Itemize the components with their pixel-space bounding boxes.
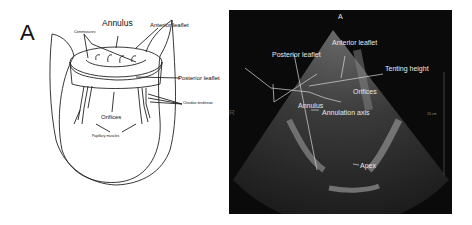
echo-label-anterior-leaflet: Anterior leaflet xyxy=(332,39,377,46)
echo-label-posterior-leaflet: Posterior leaflet xyxy=(272,51,321,58)
label-orifices: Orifices xyxy=(101,114,121,120)
echo-orientation-top: A xyxy=(338,13,343,20)
mitral-valve-diagram: Annulus Anterior leaflet Commissures Pos… xyxy=(0,0,228,225)
echo-label-apex: Apex xyxy=(360,162,376,169)
label-papillary-muscles: Papillary muscles xyxy=(92,135,119,139)
echo-orientation-left: R xyxy=(229,109,235,117)
label-commissures: Commissures xyxy=(74,31,95,35)
diagram-drawing xyxy=(0,0,228,225)
echo-scale-label: 15 cm xyxy=(427,113,437,117)
label-posterior-leaflet: Posterior leaflet xyxy=(178,75,220,81)
label-chordae-tendineae: Chordae tendineae xyxy=(183,102,213,106)
echo-label-annulation-axis: Annulation axis xyxy=(322,109,369,116)
label-anterior-leaflet: Anterior leaflet xyxy=(150,22,189,28)
echo-label-annulus: Annulus xyxy=(298,102,323,109)
echo-label-orifices: Orifices xyxy=(353,88,377,95)
echo-label-tenting-height: Tenting height xyxy=(385,65,429,72)
echocardiogram-image: A Anterior leaflet Posterior leaflet Ten… xyxy=(229,10,452,214)
label-annulus: Annulus xyxy=(102,19,133,28)
